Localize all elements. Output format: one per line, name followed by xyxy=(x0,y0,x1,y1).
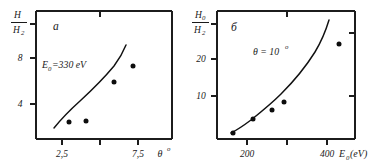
data-point xyxy=(84,119,89,124)
fitted-curve-b xyxy=(231,20,329,133)
annotation-symbol-a: E xyxy=(41,59,48,70)
data-point xyxy=(270,108,275,113)
panel-b-axes xyxy=(217,11,355,139)
x-tick-label-7-5-a: 7,5 xyxy=(132,149,144,159)
x-tick-label-2-5-a: 2,5 xyxy=(56,149,68,159)
y-axis-numerator-a: H xyxy=(13,10,22,20)
y-tick-label-4-a: 4 xyxy=(18,99,23,109)
annotation-degree-b: o xyxy=(285,43,289,50)
y-axis-denominator-sub-a: 2 xyxy=(21,29,25,36)
data-point xyxy=(231,131,236,136)
x-axis-title-b: E 0 (eV) xyxy=(338,148,368,161)
figure-container: H H 2 8 4 2,5 7,5 θ o а E 0 =330 eV xyxy=(0,0,374,168)
data-points-a xyxy=(67,64,136,125)
x-axis-title-a: θ o xyxy=(158,145,171,159)
panel-letter-b: б xyxy=(231,21,238,33)
data-point xyxy=(112,80,117,85)
y-tick-label-20-b: 20 xyxy=(196,54,206,64)
panel-a-plot: H H 2 8 4 2,5 7,5 θ o а E 0 =330 eV xyxy=(0,0,187,168)
y-axis-label-b: H 0 H 2 xyxy=(192,10,209,36)
panel-letter-a: а xyxy=(53,20,59,32)
annotation-symbol-b: θ = 10 xyxy=(253,46,279,57)
panel-b: H 0 H 2 20 10 200 400 E 0 (eV) б θ = xyxy=(187,0,374,168)
annotation-a: E 0 =330 eV xyxy=(41,59,87,72)
x-axis-title-unit-b: (eV) xyxy=(350,148,368,160)
data-point xyxy=(131,64,136,69)
x-tick-label-400-b: 400 xyxy=(320,149,335,159)
data-point xyxy=(337,42,342,47)
panel-a-y-ticks xyxy=(30,24,36,104)
fitted-curve-a xyxy=(54,45,126,128)
panel-a-x-ticks xyxy=(62,139,138,145)
data-point xyxy=(67,120,72,125)
y-axis-label-a: H H 2 xyxy=(11,10,27,36)
y-axis-denominator-a: H xyxy=(12,25,21,35)
x-axis-title-symbol-b: E xyxy=(338,148,345,159)
annotation-b: θ = 10 o xyxy=(253,43,289,57)
y-axis-denominator-b: H xyxy=(193,25,202,35)
panel-b-x-ticks xyxy=(247,139,327,145)
panel-b-y-ticks xyxy=(211,24,217,96)
panel-b-right-ticks xyxy=(349,33,355,96)
data-point xyxy=(282,100,287,105)
x-axis-title-degree-a: o xyxy=(167,145,171,152)
annotation-rest-a: =330 eV xyxy=(52,59,87,70)
x-tick-label-200-b: 200 xyxy=(240,149,255,159)
panel-b-plot: H 0 H 2 20 10 200 400 E 0 (eV) б θ = xyxy=(187,0,374,168)
panel-a: H H 2 8 4 2,5 7,5 θ o а E 0 =330 eV xyxy=(0,0,187,168)
y-axis-denominator-sub-b: 2 xyxy=(202,29,206,36)
y-axis-numerator-sub-b: 0 xyxy=(202,14,206,21)
y-tick-label-10-b: 10 xyxy=(196,91,206,101)
y-tick-label-8-a: 8 xyxy=(18,53,23,63)
data-point xyxy=(251,117,256,122)
x-axis-title-symbol-a: θ xyxy=(158,148,163,159)
